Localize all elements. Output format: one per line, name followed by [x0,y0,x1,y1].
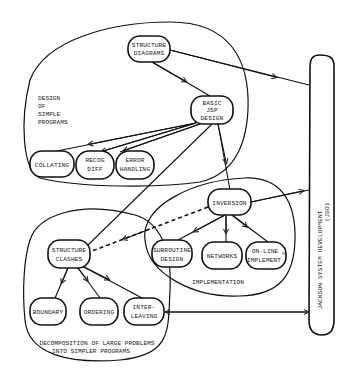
label-design-simple-programs: DESIGN OF SIMPLE PROGRAMS [38,95,68,126]
svg-text:INTER-: INTER- [133,304,156,311]
edge-clashes-to-ordering-arrow [78,268,87,280]
edge-clashes-to-interleaving-arrow [82,266,108,279]
edge-basic-to-collating-arrow [90,123,196,144]
edge-dashed-arrow [124,229,150,239]
node-structure-diagrams: STRUCTURE DIAGRAMS [128,36,170,62]
node-interleaving: INTER- LEAVING [124,298,164,325]
svg-text:DESIGN: DESIGN [161,256,184,263]
svg-text:IMPLEMENT: IMPLEMENT [247,257,282,264]
svg-text:n: n [282,250,286,257]
svg-text:COLLATING: COLLATING [35,162,70,169]
node-subroutine-design: SUBROUTINE DESIGN [152,240,192,267]
svg-text:RECOG: RECOG [85,157,104,164]
node-ordering: ORDERING [80,298,118,325]
svg-text:LEAVING: LEAVING [131,313,158,320]
svg-text:ORDERING: ORDERING [84,309,115,316]
svg-text:INTO SIMPLER PROGRAMS: INTO SIMPLER PROGRAMS [52,348,130,355]
node-basic-jsp-design: BASIC JSP DESIGN [191,96,233,124]
svg-text:STRUCTURE: STRUCTURE [132,42,167,49]
edge-basic-to-inversion-arrow [218,124,226,162]
svg-text:CLASHES: CLASHES [56,256,83,263]
svg-text:STRUCTURE: STRUCTURE [52,247,87,254]
node-boundary: BOUNDARY [30,298,66,325]
svg-text:SIMPLE: SIMPLE [38,111,61,118]
jsd-label: JACKSON SYSTEM DEVELOPMENT [317,210,324,309]
svg-text:DIFF: DIFF [87,166,102,173]
edge-basic-to-clashes [88,124,212,245]
svg-text:BOUNDARY: BOUNDARY [33,309,64,316]
edge-inversion-to-subroutine-arrow [195,215,225,231]
edge-sd-to-basic-arrow [152,62,185,81]
svg-text:INVERSION: INVERSION [212,200,247,207]
svg-text:DESIGN: DESIGN [201,115,224,122]
svg-text:HANDLING: HANDLING [120,166,151,173]
node-collating: COLLATING [30,151,74,177]
svg-text:BASIC: BASIC [202,100,221,107]
region-decomposition [24,209,171,361]
jsd-box: JACKSON SYSTEM DEVELOPMENT (JSD) [309,55,334,335]
node-error-handling: ERROR HANDLING [116,151,154,179]
svg-text:PROGRAMS: PROGRAMS [38,119,68,126]
node-structure-clashes: STRUCTURE CLASHES [48,240,90,268]
svg-text:DESIGN: DESIGN [38,95,61,102]
svg-text:SUBROUTINE: SUBROUTINE [153,247,191,254]
svg-text:ON-LINE: ON-LINE [252,248,279,255]
svg-text:ERROR: ERROR [125,157,144,164]
svg-text:JSP: JSP [206,107,218,114]
svg-text:DIAGRAMS: DIAGRAMS [134,50,165,57]
label-implementation: IMPLEMENTATION [192,279,244,286]
edge-basic-to-recog-arrow [103,123,196,151]
edge-inversion-to-online-arrow [232,215,246,226]
svg-text:DECOMPOSITION OF LARGE PROBLEM: DECOMPOSITION OF LARGE PROBLEMS [39,340,154,347]
edge-inversion-to-jsd-arrow [251,191,302,202]
node-inversion: INVERSION [208,189,251,215]
node-recog-diff: RECOG DIFF [76,151,114,179]
label-decomposition: DECOMPOSITION OF LARGE PROBLEMS INTO SIM… [39,340,154,355]
edge-clashes-to-boundary-arrow [62,268,68,282]
node-networks: NETWORKS [202,242,242,269]
jsp-concept-diagram: JACKSON SYSTEM DEVELOPMENT (JSD) STRUCTU… [0,0,354,380]
svg-text:OF: OF [38,103,46,110]
edge-sd-to-jsd-arrow [170,50,275,77]
svg-text:NETWORKS: NETWORKS [207,253,238,260]
node-online-implement: ON-LINE IMPLEMENT n [246,242,286,269]
jsd-abbrev: (JSD) [324,202,331,221]
